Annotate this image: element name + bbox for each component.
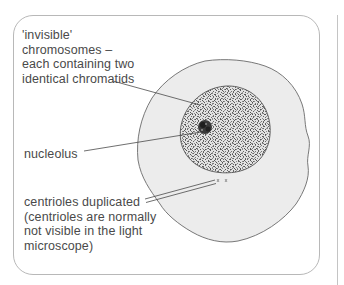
label-chromosomes: 'invisible' chromosomes – each containin… xyxy=(22,28,134,86)
label-nucleolus: nucleolus xyxy=(24,147,78,162)
label-centrioles: centrioles duplicated (centrioles are no… xyxy=(24,195,156,253)
